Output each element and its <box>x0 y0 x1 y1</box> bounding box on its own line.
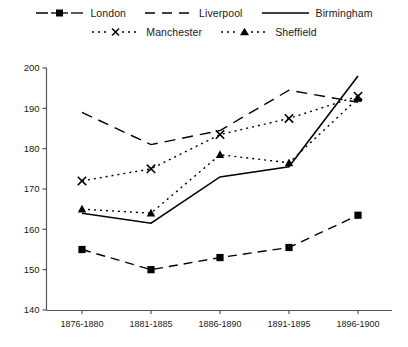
legend-label-sheffield: Sheffield <box>275 25 317 39</box>
series-line <box>82 76 358 223</box>
data-point-marker <box>285 244 292 251</box>
y-axis-ticks: 140150160170180190200 <box>24 62 47 315</box>
series-line <box>82 90 358 144</box>
legend-swatch-liverpool-longdash <box>144 6 194 20</box>
y-tick-label: 180 <box>24 143 40 154</box>
data-point-marker <box>147 266 154 273</box>
series-sheffield <box>78 94 362 217</box>
plot-svg: 140150160170180190200 1876-18801881-1885… <box>0 46 408 347</box>
legend-item-birmingham: Birmingham <box>261 4 373 22</box>
axes <box>47 68 393 311</box>
legend-label-liverpool: Liverpool <box>199 6 243 20</box>
series-london <box>78 212 361 274</box>
legend-item-sheffield: Sheffield <box>220 23 317 41</box>
series-manchester <box>78 92 362 185</box>
chart-legend: London Liverpool Birmingham <box>0 0 408 46</box>
series-line <box>82 96 358 181</box>
data-point-marker <box>78 205 86 213</box>
legend-label-london: London <box>90 6 126 20</box>
y-tick-label: 170 <box>24 183 40 194</box>
y-tick-label: 150 <box>24 264 40 275</box>
x-axis-ticks: 1876-18801881-18851886-18901891-18951896… <box>60 310 379 329</box>
legend-item-liverpool: Liverpool <box>144 4 243 22</box>
series-liverpool <box>82 90 358 144</box>
series-layer <box>78 76 362 273</box>
legend-swatch-sheffield-dotted-triangle <box>220 25 270 39</box>
x-tick-label: 1896-1900 <box>336 319 379 329</box>
legend-row-1: London Liverpool Birmingham <box>0 3 408 22</box>
legend-swatch-manchester-dotted-cross <box>91 25 141 39</box>
series-line <box>82 215 358 269</box>
plot-area: 140150160170180190200 1876-18801881-1885… <box>0 46 408 347</box>
line-chart: London Liverpool Birmingham <box>0 0 408 347</box>
x-tick-label: 1881-1885 <box>129 319 172 329</box>
series-birmingham <box>82 76 358 223</box>
legend-item-london: London <box>35 4 126 22</box>
y-tick-label: 140 <box>24 304 40 315</box>
data-point-marker <box>354 94 362 102</box>
legend-label-birmingham: Birmingham <box>316 6 373 20</box>
legend-row-2: Manchester Sheffield <box>0 22 408 41</box>
data-point-marker <box>216 150 224 158</box>
data-point-marker <box>216 254 223 261</box>
x-tick-label: 1876-1880 <box>60 319 103 329</box>
data-point-marker <box>78 246 85 253</box>
y-tick-label: 160 <box>24 224 40 235</box>
legend-label-manchester: Manchester <box>146 25 202 39</box>
y-tick-label: 190 <box>24 103 40 114</box>
y-tick-label: 200 <box>24 62 40 73</box>
legend-item-manchester: Manchester <box>91 23 202 41</box>
legend-swatch-london-dashed-square <box>35 6 85 20</box>
x-tick-label: 1886-1890 <box>198 319 241 329</box>
legend-swatch-birmingham-solid <box>261 6 311 20</box>
data-point-marker <box>354 212 361 219</box>
x-tick-label: 1891-1895 <box>267 319 310 329</box>
